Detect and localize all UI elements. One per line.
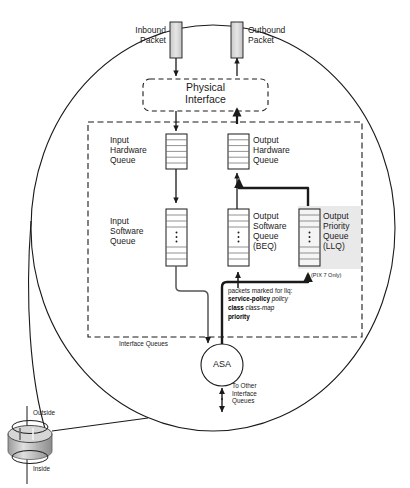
llq-cmd-class: class [228, 304, 244, 311]
outbound-packet-label: Outbound Packet [248, 25, 304, 45]
queue-output-hardware [228, 134, 249, 169]
inside-label: Inside [33, 465, 50, 473]
input-software-queue-label: Input Software Queue [110, 216, 164, 246]
llq-note-block: packets marked for llq: service-policy p… [228, 287, 348, 321]
outbound-packet-icon [231, 22, 243, 58]
outside-label: Outside [33, 409, 55, 417]
llq-note-line-2: priority [228, 312, 348, 321]
inbound-packet-label: Inbound Packet [123, 25, 166, 45]
queue-input-hardware [166, 134, 187, 169]
llq-arg-class-map: class-map [246, 304, 275, 311]
queue-output-priority [299, 209, 320, 266]
llq-cmd-priority: priority [228, 313, 250, 320]
arrow-llq-to-output-hw [239, 180, 308, 206]
queue-input-software [166, 209, 187, 266]
to-other-interface-queues-label: To Other Interface Queues [232, 382, 278, 405]
llq-note-line-1: class class-map [228, 303, 348, 312]
asa-label: ASA [201, 359, 243, 370]
llq-cmd-service-policy: service-policy [228, 295, 270, 302]
physical-interface-label: Physical Interface [143, 81, 268, 106]
llq-note-heading: packets marked for llq: [228, 287, 348, 294]
queue-output-software [228, 209, 249, 266]
arrow-input-sw-to-asa [176, 266, 208, 343]
llq-note-line-0: service-policy policy [228, 294, 348, 303]
interface-queues-boundary-label: Interface Queues [119, 340, 168, 348]
inbound-packet-icon [170, 22, 182, 58]
output-software-queue-label: Output Software Queue (BEQ) [253, 211, 299, 251]
diagram-canvas: Inbound Packet Outbound Packet Physical … [0, 0, 410, 488]
llq-arg-policy: policy [272, 295, 288, 302]
output-hardware-queue-label: Output Hardware Queue [253, 135, 313, 165]
input-hardware-queue-label: Input Hardware Queue [110, 135, 162, 165]
pix7-only-note: (PIX 7 Only) [311, 272, 341, 279]
output-priority-queue-label: Output Priority Queue (LLQ) [323, 211, 367, 251]
